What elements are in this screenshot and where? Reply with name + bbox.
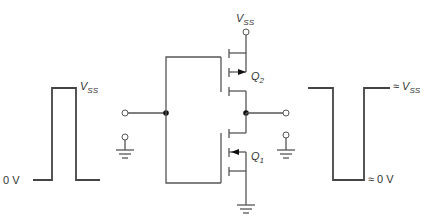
q2-label: Q2 [251,70,265,85]
q2-arrow-icon [238,69,246,75]
q1-arrow-icon [231,149,239,155]
transistor-q1: Q1 [229,113,264,205]
output-high-label: ≈ VSS [393,80,421,95]
vss-label: VSS [236,12,255,27]
input-waveform: 0 V VSS [3,80,100,186]
vss-supply: VSS [236,12,255,35]
input-high-label: VSS [80,80,99,95]
output-terminal [243,110,289,116]
cmos-inverter-diagram: 0 V VSS Q2 VSS [0,0,430,222]
q1-ground-icon [237,205,255,213]
input-low-label: 0 V [3,174,20,186]
gate-wiring [166,57,221,183]
output-ground-icon [277,132,295,158]
input-ground-icon [116,134,134,158]
transistor-q2: Q2 [229,35,265,113]
q1-label: Q1 [251,150,264,165]
output-waveform: ≈ VSS ≈ 0 V [308,80,421,185]
output-low-label: ≈ 0 V [368,173,394,185]
input-terminal [122,110,169,116]
